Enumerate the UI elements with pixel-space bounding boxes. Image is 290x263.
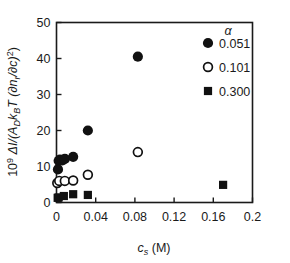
data-point: [133, 52, 143, 62]
y-tick-label: 20: [37, 124, 51, 138]
legend-label-0.051: 0.051: [219, 37, 250, 51]
y-tick-label: 0: [44, 196, 51, 210]
x-tick-label: 0.2: [244, 210, 261, 224]
data-point-layer: [53, 52, 227, 202]
data-point: [69, 176, 78, 185]
data-point: [60, 192, 68, 200]
y-axis-tick-labels: 01020304050: [37, 16, 51, 210]
chart-svg: 01020304050 00.040.080.120.160.2 α0.0510…: [0, 0, 290, 263]
x-tick-label: 0: [53, 210, 60, 224]
data-point: [53, 164, 63, 174]
legend-label-0.101: 0.101: [219, 61, 250, 75]
legend-marker-0.051: [203, 38, 213, 48]
y-tick-label: 50: [37, 16, 51, 30]
data-point: [84, 191, 92, 199]
x-tick-label: 0.04: [84, 210, 108, 224]
x-axis-tick-labels: 00.040.080.120.160.2: [53, 210, 261, 224]
series-0.051: [53, 52, 143, 175]
x-tick-label: 0.08: [123, 210, 147, 224]
x-tick-label: 0.16: [201, 210, 225, 224]
data-point: [83, 125, 93, 135]
legend-marker-0.300: [204, 87, 212, 95]
scatter-plot-figure: 01020304050 00.040.080.120.160.2 α0.0510…: [0, 0, 290, 263]
x-axis-title: cs (M): [138, 241, 171, 257]
legend-marker-0.101: [204, 63, 213, 72]
y-tick-label: 10: [37, 160, 51, 174]
data-point: [219, 181, 227, 189]
x-tick-label: 0.12: [162, 210, 186, 224]
data-point: [69, 190, 77, 198]
y-axis-title: 109 ΔI/(ADkBT (∂nr/∂c)2): [5, 47, 22, 177]
data-point: [68, 152, 78, 162]
legend-label-0.300: 0.300: [219, 85, 250, 99]
series-0.300: [54, 181, 228, 202]
y-tick-label: 30: [37, 88, 51, 102]
data-point: [133, 148, 142, 157]
y-tick-label: 40: [37, 52, 51, 66]
series-0.101: [53, 148, 142, 188]
data-point: [83, 170, 92, 179]
legend: α0.0510.1010.300: [203, 24, 250, 99]
data-point: [60, 177, 69, 186]
